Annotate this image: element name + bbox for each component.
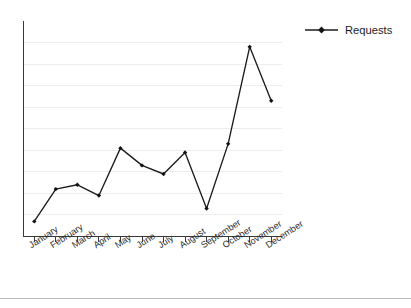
chart-background bbox=[0, 0, 411, 308]
chart-canvas: JanuaryFebruaryMarchAprilMayJuneJulyAugu… bbox=[0, 0, 411, 308]
line-chart-figure: JanuaryFebruaryMarchAprilMayJuneJulyAugu… bbox=[0, 0, 411, 308]
legend-label-requests: Requests bbox=[345, 24, 393, 36]
